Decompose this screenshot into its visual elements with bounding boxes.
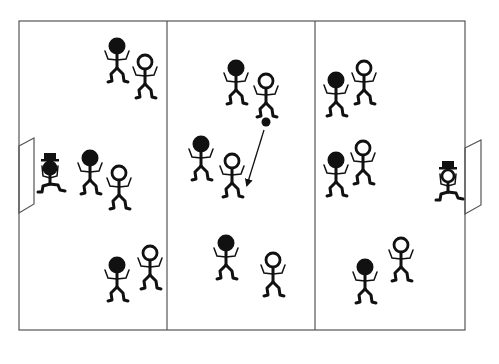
player-filled (214, 235, 238, 280)
hollow-head-icon (442, 170, 454, 182)
goalkeeper-filled (38, 153, 65, 192)
solid-head-icon (193, 136, 210, 153)
player-hollow (254, 74, 278, 117)
hollow-head-icon (138, 55, 152, 69)
solid-head-icon (109, 38, 126, 55)
solid-head-icon (82, 150, 99, 167)
player-hollow (261, 253, 285, 296)
hollow-head-icon (394, 238, 408, 252)
ball-and-pass (247, 118, 271, 186)
hollow-head-icon (356, 141, 370, 155)
player-filled (105, 257, 129, 302)
players (78, 38, 413, 304)
hollow-head-icon (143, 246, 157, 260)
player-hollow (220, 154, 244, 197)
hat-icon (44, 153, 56, 160)
solid-head-icon (218, 235, 235, 252)
player-filled (105, 38, 129, 83)
solid-head-icon (228, 60, 245, 77)
player-hollow (389, 238, 413, 281)
player-hollow (133, 55, 157, 98)
player-hollow (138, 246, 162, 289)
hollow-head-icon (357, 61, 371, 75)
drill-diagram: Team A (solid heads) Team B (hollow head… (0, 0, 499, 364)
goal-left (19, 138, 34, 213)
field-canvas (0, 0, 499, 364)
goalkeeper-hollow (436, 161, 463, 200)
player-filled (78, 150, 102, 195)
solid-head-icon (328, 152, 345, 169)
solid-head-icon (109, 257, 126, 274)
hollow-head-icon (225, 154, 239, 168)
player-hollow (352, 61, 376, 104)
ball-icon (262, 118, 271, 127)
player-hollow (351, 141, 375, 184)
player-filled (324, 72, 348, 117)
solid-head-icon (328, 72, 345, 89)
solid-head-icon (357, 259, 374, 276)
goal-right (465, 140, 481, 214)
player-hollow (107, 166, 131, 209)
hollow-head-icon (266, 253, 280, 267)
hollow-head-icon (112, 166, 126, 180)
player-filled (189, 136, 213, 181)
player-filled (353, 259, 377, 304)
hat-icon (442, 161, 454, 168)
player-filled (324, 152, 348, 197)
player-filled (224, 60, 248, 105)
hollow-head-icon (259, 74, 273, 88)
pass-arrow-icon (247, 130, 264, 185)
solid-head-icon (43, 161, 58, 176)
